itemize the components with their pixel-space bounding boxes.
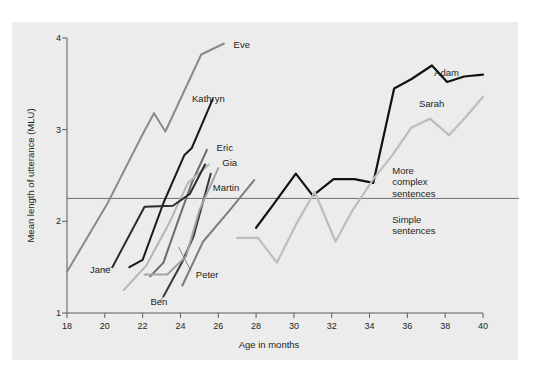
series-line-eve — [67, 44, 224, 272]
y-axis-title: Mean length of utterance (MLU) — [25, 86, 36, 266]
series-label-eve: Eve — [234, 39, 250, 50]
y-tick-label: 1 — [47, 308, 61, 318]
y-tick-label: 3 — [47, 125, 61, 135]
series-label-jane: Jane — [90, 264, 111, 275]
x-tick-label: 20 — [100, 321, 110, 331]
y-tick-label: 2 — [47, 216, 61, 226]
series-label-sarah: Sarah — [419, 98, 444, 109]
x-tick-label: 24 — [175, 321, 185, 331]
y-tick-label: 4 — [47, 33, 61, 43]
x-tick-label: 26 — [213, 321, 223, 331]
series-line-adam — [256, 66, 483, 228]
annotation-1: Simple sentences — [392, 214, 435, 237]
x-tick-label: 36 — [402, 321, 412, 331]
series-label-kathryn: Kathryn — [192, 93, 225, 104]
x-tick-label: 32 — [327, 321, 337, 331]
x-tick-label: 30 — [289, 321, 299, 331]
x-tick-label: 18 — [62, 321, 72, 331]
chart-svg — [0, 0, 538, 378]
x-tick-label: 40 — [478, 321, 488, 331]
series-label-adam: Adam — [434, 67, 459, 78]
x-tick-label: 34 — [365, 321, 375, 331]
series-label-peter: Peter — [196, 269, 219, 280]
series-label-eric: Eric — [217, 142, 233, 153]
x-tick-label: 22 — [138, 321, 148, 331]
x-tick-label: 28 — [251, 321, 261, 331]
x-tick-label: 38 — [440, 321, 450, 331]
series-label-martin: Martin — [213, 182, 239, 193]
x-axis-title: Age in months — [0, 339, 538, 350]
figure-root: EveKathrynEricGiaJaneBenPeterMartinAdamS… — [0, 0, 538, 378]
series-label-gia: Gia — [222, 157, 237, 168]
annotation-0: More complex sentences — [392, 165, 435, 200]
series-label-ben: Ben — [150, 296, 167, 307]
